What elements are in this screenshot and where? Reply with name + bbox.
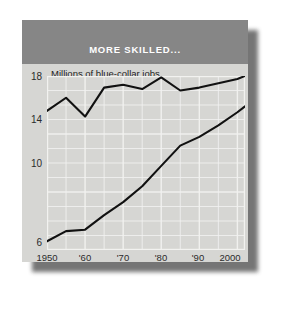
- chart-title: MORE SKILLED...: [22, 44, 248, 55]
- x-tick-label-1950: 1950: [30, 252, 64, 262]
- x-tick-label-2000: 2000: [213, 252, 247, 262]
- y-tick-label-10: 10: [22, 158, 42, 169]
- x-tick-label-1960: '60: [68, 252, 102, 262]
- title-banner: [22, 20, 248, 64]
- chart-panel: MORE SKILLED... Millions of blue-collar …: [22, 20, 248, 262]
- x-tick-label-1980: '80: [144, 252, 178, 262]
- y-tick-label-6: 6: [22, 237, 42, 248]
- x-tick-label-1990: '90: [181, 252, 215, 262]
- x-tick-label-1970: '70: [106, 252, 140, 262]
- y-tick-label-18: 18: [22, 71, 42, 82]
- y-tick-label-14: 14: [22, 114, 42, 125]
- chart-figure: MORE SKILLED... Millions of blue-collar …: [0, 0, 283, 315]
- plot-area: [47, 76, 245, 250]
- chart-svg: [47, 76, 245, 250]
